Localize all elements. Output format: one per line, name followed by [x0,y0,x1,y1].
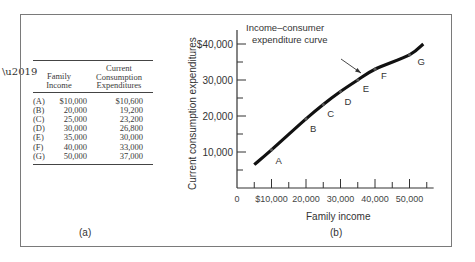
chart-axes: 0$10,00020,00030,00040,00050,00010,00020… [197,30,434,204]
x-tick-label: 30,000 [327,194,355,204]
curve-annotation: Income–consumerexpenditure curve [246,22,361,73]
x-tick-label: 0 [234,194,239,204]
data-point-label: B [310,123,316,134]
data-point-label: D [345,96,352,107]
y-tick-label: 30,000 [202,75,233,86]
y-tick-label: 10,000 [202,147,233,158]
data-point-marker [322,103,325,106]
arrowhead-icon [355,68,361,73]
curve-path [254,44,423,165]
y-tick-label: 20,000 [202,111,233,122]
income-expenditure-chart: 0$10,00020,00030,00040,00050,00010,00020… [0,0,475,262]
data-point-marker [304,117,307,120]
data-point-label: G [418,56,425,67]
data-point-label: C [327,108,334,119]
data-point-label: F [381,70,387,81]
income-expenditure-curve [254,44,423,165]
x-axis-label: Family income [306,211,370,222]
data-point-marker [373,68,376,71]
x-tick-label: 20,000 [292,194,320,204]
data-point-label: A [276,155,283,166]
data-point-marker [408,53,411,56]
data-point-label: E [363,83,369,94]
annotation-line: expenditure curve [252,34,328,45]
x-tick-label: 50,000 [396,194,424,204]
annotation-line: Income–consumer [246,22,324,33]
data-point-marker [270,148,273,151]
data-point-marker [356,78,359,81]
x-tick-label: 40,000 [361,194,389,204]
data-point-marker [339,90,342,93]
y-tick-label: $40,000 [197,39,234,50]
x-tick-label: $10,000 [255,194,288,204]
data-points: ABCDEFG [270,53,425,166]
y-axis-label: Current consumption expenditures [187,37,198,190]
panel-b-label: (b) [330,227,342,238]
